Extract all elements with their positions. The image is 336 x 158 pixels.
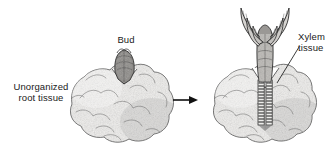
panel-right: [209, 8, 327, 150]
label-bud: Bud: [108, 34, 144, 45]
label-xylem-tissue: Xylem tissue: [298, 31, 336, 53]
label-unorganized-root-tissue: Unorganized root tissue: [8, 81, 74, 103]
shoot-stem: [257, 25, 273, 84]
panel-left: [66, 49, 184, 150]
callus-differentiation-figure: [0, 0, 336, 158]
transition-arrow: [173, 96, 198, 104]
